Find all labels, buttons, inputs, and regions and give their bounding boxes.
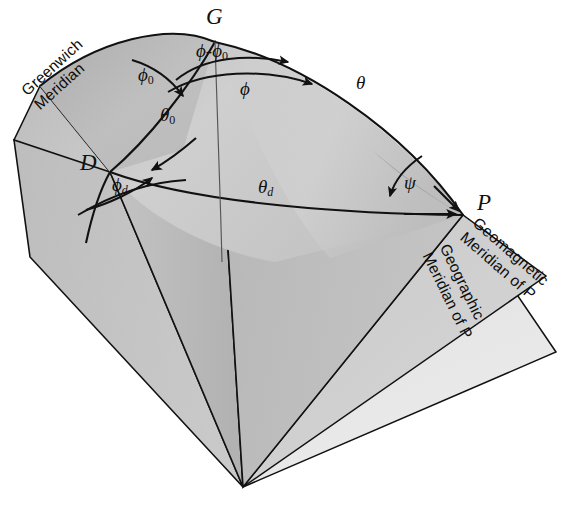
point-label-D: D — [80, 150, 97, 176]
label-theta0: θ0 — [160, 104, 175, 128]
diagram-canvas: G D P ϕ-ϕ0 ϕ ϕ0 ϕd ψ θ0 θ θd Greenwich M… — [0, 0, 565, 508]
point-label-P: P — [477, 190, 491, 216]
label-phi-d: ϕd — [112, 174, 128, 198]
label-phi-minus-phi0: ϕ-ϕ0 — [196, 40, 228, 64]
label-phi: ϕ — [240, 78, 250, 100]
label-theta-d: θd — [258, 176, 273, 200]
point-label-G: G — [206, 4, 223, 30]
label-psi: ψ — [404, 172, 416, 194]
label-theta: θ — [356, 72, 365, 94]
label-phi0: ϕ0 — [138, 64, 154, 88]
